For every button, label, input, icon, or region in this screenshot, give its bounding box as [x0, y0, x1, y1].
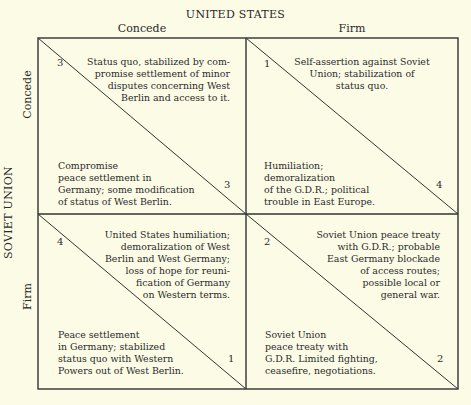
us-payoff: 1: [264, 58, 270, 69]
soviet-outcome: Compromise peace settlement in Germany; …: [58, 160, 218, 208]
us-outcome: Self-assertion against Soviet Union; sta…: [280, 56, 444, 92]
us-outcome: Status quo, stabilized by com- promise s…: [64, 56, 230, 104]
us-outcome: United States humiliation; demoralizatio…: [72, 229, 230, 301]
soviet-payoff: 3: [224, 179, 230, 190]
soviet-outcome: Humiliation; demoralization of the G.D.R…: [264, 160, 414, 208]
soviet-outcome: Soviet Union peace treaty with G.D.R. Li…: [265, 329, 415, 377]
us-payoff: 4: [57, 236, 63, 247]
us-payoff: 3: [57, 57, 63, 68]
us-payoff: 2: [264, 236, 270, 247]
soviet-payoff: 4: [436, 179, 442, 190]
soviet-payoff: 1: [228, 353, 234, 364]
us-outcome: Soviet Union peace treaty with G.D.R.; p…: [280, 229, 440, 301]
soviet-outcome: Peace settlement in Germany; stabilized …: [58, 329, 218, 377]
soviet-payoff: 2: [437, 353, 443, 364]
